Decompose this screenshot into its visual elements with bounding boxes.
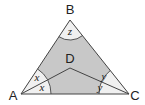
vertex-label-a: A xyxy=(9,88,18,103)
vertex-label-b: B xyxy=(66,2,75,17)
triangle-diagram: B A C D z x x y y xyxy=(0,0,145,105)
angle-label-z: z xyxy=(67,25,73,37)
vertex-label-c: C xyxy=(130,88,139,103)
vertex-label-d: D xyxy=(65,51,74,66)
angle-label-y-lower: y xyxy=(97,81,103,93)
angle-label-x-lower: x xyxy=(39,81,45,93)
